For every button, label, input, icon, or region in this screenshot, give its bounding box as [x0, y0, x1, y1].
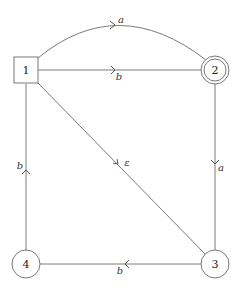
arrow-right-icon — [110, 21, 115, 29]
edge-label-b-bottom: b — [117, 265, 123, 276]
node-4: 4 — [12, 250, 40, 278]
edge-label-b-left: b — [17, 160, 23, 171]
arrow-diagonal-icon — [113, 159, 118, 164]
node-2: 2 — [201, 56, 229, 84]
svg-text:2: 2 — [212, 64, 219, 77]
svg-text:3: 3 — [212, 258, 219, 271]
svg-text:4: 4 — [23, 258, 30, 271]
svg-text:1: 1 — [23, 64, 30, 77]
node-3: 3 — [201, 250, 229, 278]
automaton-diagram: a b ε a b b 1 2 3 — [0, 0, 244, 289]
edge-label-b-middle: b — [116, 71, 122, 82]
edge-1-to-2-b: b — [38, 66, 201, 82]
node-1: 1 — [14, 57, 38, 83]
edge-4-to-1-b: b — [17, 84, 30, 250]
edge-label-epsilon: ε — [124, 157, 129, 168]
edge-1-to-3-epsilon: ε — [38, 83, 205, 254]
edge-2-to-3-a: a — [211, 84, 224, 250]
edge-1-to-2-a: a — [38, 14, 206, 61]
edge-label-a-top: a — [118, 14, 124, 25]
edge-label-a-right: a — [218, 162, 224, 173]
edge-3-to-4-b: b — [40, 260, 201, 276]
